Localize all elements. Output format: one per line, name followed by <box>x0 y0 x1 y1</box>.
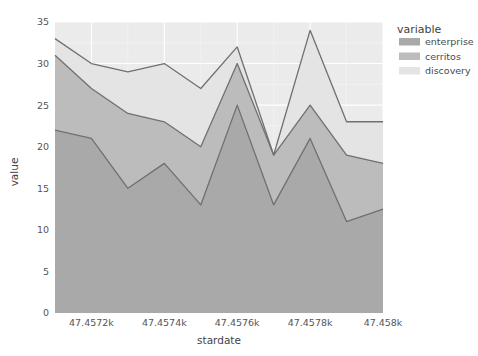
y-tick-label: 30 <box>37 58 49 69</box>
legend-label-cerritos: cerritos <box>425 51 461 62</box>
chart-figure: 05101520253035 47.4572k47.4574k47.4576k4… <box>0 0 478 356</box>
y-tick-label: 10 <box>37 224 49 235</box>
legend-label-discovery: discovery <box>425 65 471 76</box>
y-tick-label: 35 <box>37 16 49 27</box>
legend-title: variable <box>397 23 442 36</box>
y-tick-label: 20 <box>37 141 49 152</box>
y-tick-label: 15 <box>37 183 49 194</box>
legend-label-enterprise: enterprise <box>425 36 474 47</box>
x-tick-label: 47.4578k <box>288 317 333 328</box>
y-axis-title: value <box>8 158 20 187</box>
x-tick-label: 47.4572k <box>69 317 114 328</box>
x-tick-label: 47.4574k <box>142 317 187 328</box>
legend-swatch-cerritos <box>399 53 420 61</box>
legend-swatch-enterprise <box>399 38 420 46</box>
y-tick-label: 25 <box>37 100 49 111</box>
stacked-area-chart: 05101520253035 47.4572k47.4574k47.4576k4… <box>0 0 478 356</box>
legend-swatch-discovery <box>399 67 420 75</box>
y-tick-label: 5 <box>43 266 49 277</box>
x-axis-title: stardate <box>197 334 241 346</box>
y-tick-label: 0 <box>43 307 49 318</box>
x-tick-label: 47.4576k <box>215 317 260 328</box>
x-tick-label: 47.458k <box>364 317 403 328</box>
